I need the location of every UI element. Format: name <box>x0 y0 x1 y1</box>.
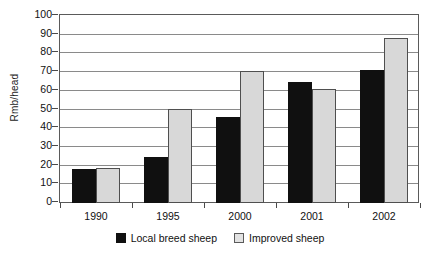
y-axis-tick-label: 90 <box>6 28 52 38</box>
bar-1990-local <box>72 169 96 203</box>
y-axis-tick-mark <box>52 145 58 146</box>
y-axis-tick-column: 0102030405060708090100 <box>0 14 52 203</box>
y-axis-tick-label: 0 <box>6 196 52 206</box>
y-axis-tick-label: 100 <box>6 9 52 19</box>
y-axis-tick-label: 80 <box>6 46 52 56</box>
y-axis-tick-mark <box>52 89 58 90</box>
bar-1990-improved <box>96 168 120 204</box>
bar-2002-improved <box>384 38 408 203</box>
legend-entry-improved: Improved sheep <box>234 232 324 244</box>
x-axis-tick-label: 2000 <box>228 210 251 222</box>
y-axis-tick-mark <box>52 70 58 71</box>
y-axis-tick-mark <box>52 51 58 52</box>
y-axis-tick-mark <box>52 108 58 109</box>
bar-2000-local <box>216 117 240 203</box>
bar-1995-local <box>144 157 168 203</box>
x-axis-tick-label: 2001 <box>300 210 323 222</box>
y-axis-tick-label: 10 <box>6 177 52 187</box>
x-axis-tick-labels: 19901995200020012002 <box>60 210 418 226</box>
y-axis-tick-mark <box>52 201 58 202</box>
x-axis-tick-mark <box>60 203 61 208</box>
bars-layer <box>60 15 418 203</box>
bar-2001-improved <box>312 89 336 203</box>
y-axis-tick-label: 70 <box>6 65 52 75</box>
x-axis-tick-label: 1990 <box>84 210 107 222</box>
y-axis-tick-mark <box>52 14 58 15</box>
y-axis-tick-mark <box>52 126 58 127</box>
y-axis-tick-mark <box>52 164 58 165</box>
x-axis-tick-mark <box>348 203 349 208</box>
bar-1995-improved <box>168 109 192 203</box>
legend-entry-local: Local breed sheep <box>116 232 217 244</box>
bar-2002-local <box>360 70 384 203</box>
x-axis-tick-mark <box>132 203 133 208</box>
bar-chart: Rmb/head 0102030405060708090100 19901995… <box>0 0 440 254</box>
y-axis-tick-mark <box>52 182 58 183</box>
x-axis-tick-label: 2002 <box>372 210 395 222</box>
bar-2000-improved <box>240 71 264 203</box>
x-axis-tick-mark <box>420 203 421 208</box>
y-axis-tick-mark <box>52 33 58 34</box>
y-axis-tick-label: 40 <box>6 121 52 131</box>
y-axis-tick-label: 20 <box>6 159 52 169</box>
legend-label: Local breed sheep <box>131 232 217 244</box>
x-axis-tick-label: 1995 <box>156 210 179 222</box>
y-axis-tick-label: 50 <box>6 103 52 113</box>
legend-swatch-icon <box>234 233 244 243</box>
x-axis-tick-mark <box>276 203 277 208</box>
y-axis-tick-label: 60 <box>6 84 52 94</box>
y-axis-tick-label: 30 <box>6 140 52 150</box>
bar-2001-local <box>288 82 312 204</box>
x-axis-tick-mark <box>204 203 205 208</box>
legend: Local breed sheepImproved sheep <box>0 232 440 244</box>
legend-label: Improved sheep <box>249 232 324 244</box>
legend-swatch-icon <box>116 233 126 243</box>
